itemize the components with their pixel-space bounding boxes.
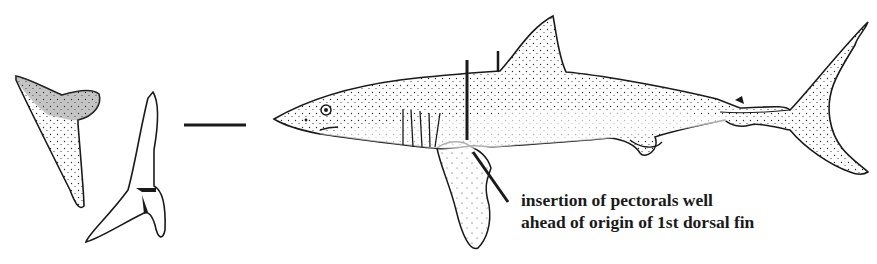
annotation-label: insertion of pectorals well ahead of ori… [521, 189, 754, 233]
lower-tooth-illustration [86, 92, 165, 242]
annotation-line-1: insertion of pectorals well [521, 189, 754, 211]
figure-canvas: insertion of pectorals well ahead of ori… [0, 0, 877, 264]
upper-tooth-illustration [16, 76, 100, 207]
annotation-line-2: ahead of origin of 1st dorsal fin [521, 211, 754, 233]
